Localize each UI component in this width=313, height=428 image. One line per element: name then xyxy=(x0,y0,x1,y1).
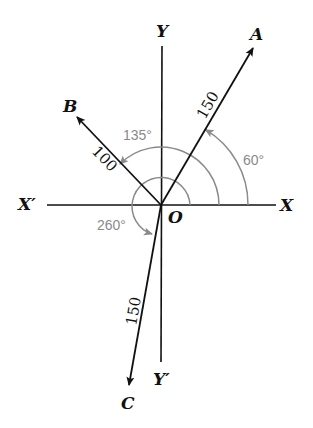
vector-a-label: A xyxy=(248,24,263,44)
angle-label-135: 135° xyxy=(123,127,152,143)
vector-a xyxy=(161,48,253,205)
angle-arc-135 xyxy=(120,147,219,205)
origin-label: O xyxy=(168,207,183,227)
vector-b-magnitude: 100 xyxy=(88,142,121,175)
vector-c-label: C xyxy=(121,393,135,413)
x-axis-label: X xyxy=(279,195,294,215)
y-neg-axis-label: Y′ xyxy=(153,369,170,389)
vector-c xyxy=(129,205,161,385)
vector-b-label: B xyxy=(62,96,77,116)
angle-label-260: 260° xyxy=(97,217,126,233)
x-neg-axis-label: X′ xyxy=(17,194,36,214)
angle-label-60: 60° xyxy=(243,152,264,168)
angle-arc-60 xyxy=(206,130,249,205)
vector-diagram: Y X′ X Y′ O A B C 150 100 150 60° 135° 2… xyxy=(0,0,313,428)
y-axis-label: Y xyxy=(156,21,170,41)
vector-c-magnitude: 150 xyxy=(122,295,145,326)
vector-a-magnitude: 150 xyxy=(193,88,223,122)
